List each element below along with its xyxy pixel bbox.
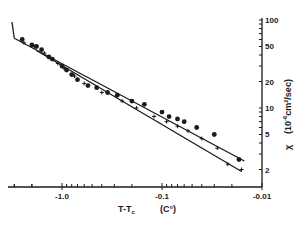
data-point-circle (115, 93, 120, 98)
x-axis-unit: (C°) (160, 204, 176, 214)
data-point-circle (167, 114, 172, 119)
data-point-circle (105, 90, 110, 95)
x-tick-label: -0.01 (253, 192, 272, 201)
data-point-circle (129, 99, 134, 104)
data-point-circle (194, 125, 199, 130)
y-tick-label: 100 (265, 16, 279, 25)
data-point-circle (50, 57, 55, 62)
y-axis-title: χ(10-6cm²/sec) (282, 79, 293, 150)
fit-lines (12, 22, 244, 171)
y-tick-label: 50 (265, 42, 274, 51)
data-points (20, 37, 244, 171)
chart: -1.0-0.1-0.01 10050201052 T-Tc(C°)χ(10-6… (0, 0, 298, 226)
data-point-circle (60, 64, 65, 69)
data-point-circle (94, 85, 99, 90)
data-point-circle (175, 117, 180, 122)
y-axis-unit-rest: cm²/sec) (283, 79, 293, 116)
data-point-circle (237, 157, 242, 162)
y-tick-label: 5 (265, 130, 270, 139)
x-tick-label: -0.1 (155, 192, 169, 201)
fit-line-extension (12, 22, 14, 38)
data-point-circle (86, 83, 91, 88)
data-point-circle (75, 77, 80, 82)
data-point-circle (39, 47, 44, 52)
y-tick-label: 10 (265, 104, 274, 113)
data-point-circle (212, 132, 217, 137)
data-point-circle (142, 102, 147, 107)
data-point-circle (182, 119, 187, 124)
y-axis-unit: (10-6cm²/sec) (282, 79, 293, 134)
x-axis: -1.0-0.1-0.01 (8, 183, 272, 201)
x-tick-label: -1.0 (55, 192, 69, 201)
y-axis: 10050201052 (259, 16, 279, 187)
y-tick-label: 20 (265, 78, 274, 87)
y-tick-label: 2 (265, 166, 270, 175)
y-axis-symbol: χ (283, 144, 293, 150)
x-axis-title: T-Tc (118, 204, 136, 215)
x-axis-title-subscript: c (132, 209, 136, 215)
data-point-circle (160, 110, 165, 115)
